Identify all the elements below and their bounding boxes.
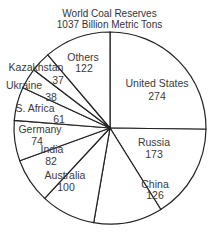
- slice-label-russia: Russia: [138, 136, 170, 148]
- slice-label-australia: Australia: [45, 169, 86, 181]
- slice-label-s-africa: S. Africa: [15, 102, 54, 114]
- slice-value-united-states: 274: [148, 90, 166, 102]
- slice-value-kazakhstan: 37: [52, 74, 64, 86]
- slice-label-ukraine: Ukraine: [6, 79, 42, 91]
- slice-value-india: 82: [45, 155, 57, 167]
- slice-value-germany: 74: [31, 135, 43, 147]
- slice-value-others: 122: [75, 62, 93, 74]
- slice-value-s-africa: 61: [53, 113, 65, 125]
- slice-value-russia: 173: [145, 148, 163, 160]
- slice-label-kazakhstan: Kazakhstan: [9, 61, 64, 73]
- slice-value-china: 126: [146, 189, 164, 201]
- slice-label-united-states: United States: [125, 77, 188, 89]
- slice-value-ukraine: 38: [45, 91, 57, 103]
- slice-value-australia: 100: [57, 181, 75, 193]
- pie-chart: United States274Russia173China126Austral…: [0, 0, 219, 235]
- slice-label-india: India: [41, 143, 64, 155]
